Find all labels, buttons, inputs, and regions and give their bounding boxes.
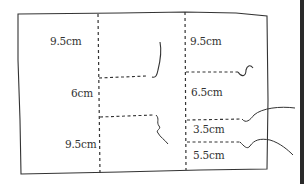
thread-squiggle-3 — [240, 139, 293, 155]
left-cut-line-2 — [100, 115, 154, 117]
dimension-right-4: 5.5cm — [193, 150, 225, 161]
frame-edge — [300, 0, 304, 184]
dimension-right-1: 9.5cm — [190, 36, 222, 47]
tear-squiggle-1 — [152, 42, 161, 77]
dimension-right-3: 3.5cm — [193, 124, 225, 135]
dimension-left-bottom: 9.5cm — [65, 139, 97, 150]
left-cut-line-1 — [99, 76, 146, 78]
tear-squiggle-2 — [156, 115, 168, 144]
dimension-right-2: 6.5cm — [191, 87, 223, 98]
dimension-left-middle: 6cm — [71, 88, 93, 99]
dimension-left-top: 9.5cm — [50, 36, 82, 47]
thread-squiggle-1 — [238, 66, 253, 76]
pattern-diagram — [0, 0, 304, 184]
left-dashed-fold — [98, 14, 100, 174]
thread-squiggle-2 — [242, 107, 295, 121]
right-dashed-fold — [185, 12, 186, 170]
right-cut-line-2 — [187, 119, 242, 120]
